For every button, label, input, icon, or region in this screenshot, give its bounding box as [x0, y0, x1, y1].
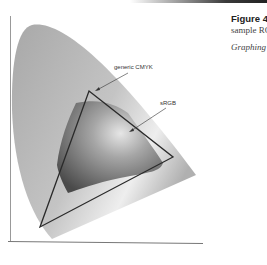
figure-title: Figure 4.: [231, 13, 267, 24]
gamut-diagram: [0, 0, 267, 265]
cmyk-label: generic CMYK: [114, 64, 153, 70]
srgb-label: sRGB: [160, 100, 176, 106]
figure-caption-line: sample RC: [231, 25, 267, 35]
x-axis: [8, 242, 203, 244]
figure-caption-italic: Graphing: [231, 42, 266, 52]
